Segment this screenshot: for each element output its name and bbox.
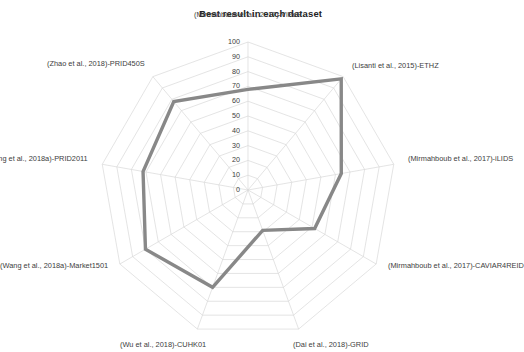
radial-tick-label: 70 — [202, 81, 240, 90]
radial-tick-label: 50 — [202, 111, 240, 120]
radial-tick-label: 20 — [202, 155, 240, 164]
axis-spoke — [248, 164, 394, 190]
axis-spoke — [120, 190, 248, 264]
category-label: (Dai et al., 2018)-GRID — [293, 341, 369, 349]
category-label: (Mirmahboub et al., 2017)-ViPeR — [194, 11, 302, 19]
category-label: (Zhao et al., 2018)-PRID450S — [47, 60, 145, 68]
category-label: (Mirmahboub et al., 2017)-CAVIAR4REID — [388, 262, 524, 270]
radial-tick-label: 80 — [202, 67, 240, 76]
radial-tick-label: 30 — [202, 141, 240, 150]
category-label: (Wang et al., 2018a)-PRID2011 — [0, 155, 88, 163]
radial-tick-label: 0 — [202, 185, 240, 194]
radial-tick-label: 10 — [202, 170, 240, 179]
category-label: (Lisanti et al., 2015)-ETHZ — [352, 62, 439, 70]
radial-tick-label: 100 — [202, 37, 240, 46]
category-label: (Wu et al., 2018)-CUHK01 — [120, 341, 206, 349]
category-label: (Mirmahboub et al., 2017)-iLIDS — [408, 155, 513, 163]
radial-tick-label: 60 — [202, 96, 240, 105]
radial-tick-label: 40 — [202, 126, 240, 135]
radial-tick-label: 90 — [202, 52, 240, 61]
axis-spoke — [248, 77, 343, 190]
category-label: (Wang et al., 2018a)-Market1501 — [0, 262, 108, 270]
